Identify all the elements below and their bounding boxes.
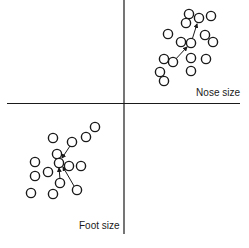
data-point — [67, 137, 76, 146]
data-point — [48, 133, 57, 142]
data-point — [186, 53, 195, 62]
data-point — [159, 54, 168, 63]
diagram: Nose size Foot size — [0, 0, 249, 248]
arrow — [59, 168, 60, 179]
data-point — [159, 76, 168, 85]
nose-size-label: Nose size — [196, 87, 240, 98]
data-point — [181, 18, 190, 27]
data-point — [76, 161, 85, 170]
data-point — [163, 29, 172, 38]
data-point — [30, 171, 39, 180]
data-point — [200, 30, 209, 39]
data-point — [201, 54, 210, 63]
data-point — [186, 66, 195, 75]
data-point — [72, 185, 81, 194]
data-point — [55, 178, 64, 187]
data-point — [64, 161, 73, 170]
data-point — [48, 189, 57, 198]
data-point — [168, 57, 177, 66]
data-point — [194, 13, 203, 22]
data-point — [186, 38, 195, 47]
data-point — [43, 167, 52, 176]
data-point — [176, 37, 185, 46]
data-point — [30, 157, 39, 166]
data-point — [206, 11, 215, 20]
data-point — [26, 188, 35, 197]
arrow — [62, 146, 70, 158]
data-point — [90, 122, 99, 131]
foot-size-label: Foot size — [79, 220, 120, 231]
data-point — [81, 132, 90, 141]
data-point — [208, 37, 217, 46]
data-point — [52, 149, 61, 158]
upper-right-cluster — [155, 9, 217, 85]
data-point — [54, 158, 63, 167]
data-point — [155, 67, 164, 76]
lower-left-cluster — [26, 122, 99, 198]
diagram-canvas — [0, 0, 249, 248]
data-point — [184, 9, 193, 18]
